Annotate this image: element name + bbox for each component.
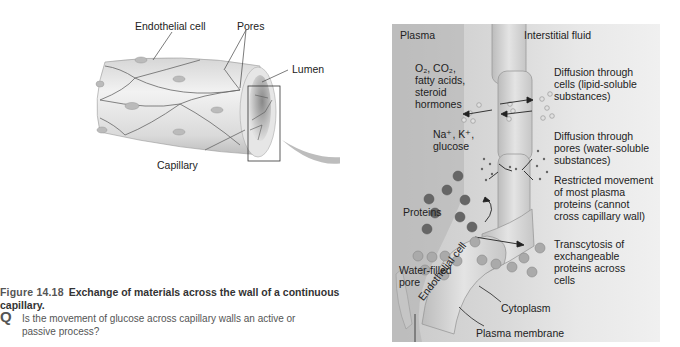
desc-transcytosis: Transcytosis of exchangeable proteins ac… <box>554 238 625 286</box>
proteins-label: Proteins <box>403 206 442 218</box>
label-capillary: Capillary <box>157 159 198 171</box>
desc-diffusion-cells: Diffusion through cells (lipid-soluble s… <box>554 66 637 102</box>
label-lumen: Lumen <box>292 63 324 75</box>
region-interstitial-fluid: Interstitial fluid <box>524 29 591 41</box>
cytoplasm-label: Cytoplasm <box>501 302 551 314</box>
question-marker-icon: Q <box>0 310 12 323</box>
figure-caption: Figure 14.18Exchange of materials across… <box>0 286 360 312</box>
ions-glucose-label: Na⁺, K⁺, glucose <box>433 128 474 152</box>
figure-number: Figure 14.18 <box>0 286 64 298</box>
label-pores: Pores <box>237 20 264 32</box>
desc-restricted-movement: Restricted movement of most plasma prote… <box>554 174 653 222</box>
plasma-membrane-label: Plasma membrane <box>476 327 564 339</box>
region-plasma: Plasma <box>400 29 435 41</box>
label-endothelial-cell: Endothelial cell <box>135 20 206 32</box>
lipid-substances-label: O₂, CO₂, fatty acids, steroid hormones <box>415 62 465 110</box>
question-text: Is the movement of glucose across capill… <box>22 312 302 338</box>
desc-diffusion-pores: Diffusion through pores (water-soluble s… <box>554 130 649 166</box>
